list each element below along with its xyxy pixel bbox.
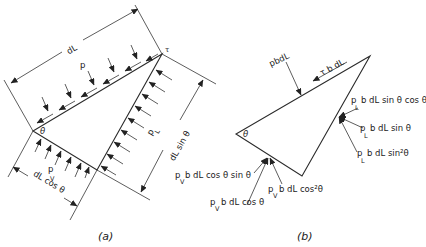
theta-label-a: θ <box>40 126 46 136</box>
pl-sin2-arrow <box>339 117 357 152</box>
dlsin-extension-bottom <box>97 170 150 200</box>
svg-text:L: L <box>355 104 359 112</box>
pl-sincos-label: p L b dL sin θ cos θ <box>351 95 426 112</box>
pl-pressure-arrows <box>101 70 172 175</box>
pv-cossin-label: p V b dL cos θ sin θ <box>175 170 251 186</box>
pl-sin-label: p L b dL sin θ <box>360 123 411 140</box>
tau-bdl-label: τ b dL <box>318 57 346 78</box>
pbdl-arrow <box>286 62 301 95</box>
caption-a: (a) <box>98 230 113 243</box>
svg-text:p: p <box>48 164 53 174</box>
svg-text:V: V <box>273 192 278 200</box>
dlcos-dimension-line-2 <box>64 198 77 206</box>
dlsin-dimension-line-2 <box>141 150 163 192</box>
dlcos-dimension-line-1 <box>13 167 28 176</box>
pl-label: p L <box>145 124 162 139</box>
tau-label: τ <box>165 46 169 54</box>
dl-label: dL <box>65 42 79 56</box>
dlsin-dimension-line-1 <box>180 80 203 120</box>
svg-text:b dL sin θ: b dL sin θ <box>370 123 411 133</box>
dlsin-extension-top <box>162 54 216 84</box>
svg-text:b dL sin²θ: b dL sin²θ <box>367 148 409 158</box>
figure-a: dL p τ <box>4 5 216 243</box>
dl-dimension-line-2 <box>83 9 138 40</box>
figure-b: θ pbdL τ b dL p L b dL sin θ cos θ p L b… <box>175 50 426 243</box>
triangle-b <box>236 56 370 176</box>
svg-text:b dL cos θ sin θ: b dL cos θ sin θ <box>185 170 251 180</box>
pv-cos-label: p V b dL cos θ <box>210 197 264 213</box>
svg-text:L: L <box>364 132 368 140</box>
pl-sin2-label: p L b dL sin²θ <box>357 148 409 165</box>
theta-label-b: θ <box>243 129 249 139</box>
shear-arrows <box>37 54 158 123</box>
dlcos-extension-right <box>70 170 97 220</box>
svg-text:b dL cos²θ: b dL cos²θ <box>279 184 323 194</box>
dlcos-extension-left <box>8 131 33 177</box>
svg-text:V: V <box>215 205 220 213</box>
dl-dimension-line-1 <box>11 52 62 83</box>
pv-cos2-label: p V b dL cos²θ <box>268 184 323 200</box>
dl-extension-left <box>4 80 33 131</box>
diagram-canvas: dL p τ <box>0 0 426 247</box>
svg-text:b dL cos θ: b dL cos θ <box>221 197 264 207</box>
caption-b: (b) <box>297 230 313 243</box>
svg-text:L: L <box>361 157 365 165</box>
p-label: p <box>80 60 85 70</box>
triangle-a <box>33 54 162 170</box>
svg-text:b dL sin θ cos θ: b dL sin θ cos θ <box>361 95 426 105</box>
dl-extension-right <box>135 5 162 54</box>
dlsin-label: dL sin θ <box>167 129 192 163</box>
